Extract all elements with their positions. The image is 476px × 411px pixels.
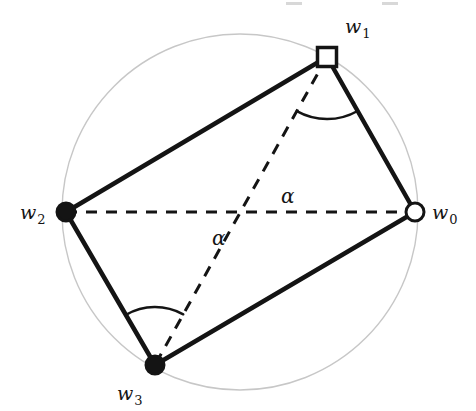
vertex-label-base-w1: w: [345, 15, 361, 37]
vertex-marker-w2: [57, 203, 75, 221]
vertex-label-sub-w1: 1: [362, 26, 370, 41]
vertex-marker-w1: [318, 48, 337, 67]
vertex-label-sub-w3: 3: [134, 393, 142, 408]
vertex-label-sub-w2: 2: [37, 212, 45, 227]
vertex-marker-w0: [406, 203, 424, 221]
vertex-label-sub-w0: 0: [449, 212, 457, 227]
scan-artifact-left: [286, 2, 302, 5]
scan-artifact-right: [382, 2, 398, 5]
figure-canvas: w0w1w2w3 αα: [0, 0, 476, 411]
vertex-label-base-w0: w: [432, 201, 448, 223]
geometry-diagram: w0w1w2w3 αα: [0, 0, 476, 411]
vertex-marker-w3: [146, 356, 164, 374]
vertex-label-base-w3: w: [117, 382, 133, 404]
vertex-label-base-w2: w: [20, 201, 36, 223]
angle-alpha-upper-label: α: [281, 184, 295, 208]
angle-alpha-lower-label: α: [212, 226, 226, 250]
